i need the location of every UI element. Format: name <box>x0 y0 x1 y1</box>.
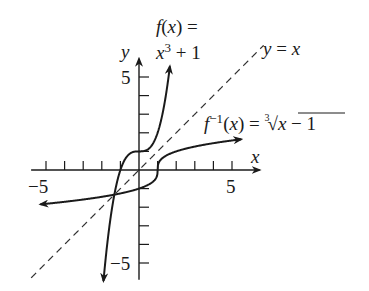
function-inverse-plot: y x −5 5 5 −5 f(x) = x3 + 1 y = x f−1(x)… <box>0 0 369 291</box>
y-axis-label: y <box>119 41 130 62</box>
f-label-line1: f(x) = <box>156 16 198 38</box>
x-axis-label: x <box>250 146 260 167</box>
curves <box>31 45 264 281</box>
y-tick-label-5: 5 <box>121 67 131 88</box>
axes <box>31 59 260 280</box>
inverse-label: f−1(x) = 3√x − 1 <box>204 111 316 135</box>
identity-line-label: y = x <box>261 38 301 59</box>
function-curve <box>103 66 169 281</box>
x-tick-label-neg5: −5 <box>28 176 48 197</box>
identity-line <box>31 45 264 278</box>
inverse-curve <box>40 139 241 204</box>
f-label-line2: x3 + 1 <box>155 40 201 63</box>
x-tick-label-5: 5 <box>226 176 236 197</box>
labels: y x −5 5 5 −5 f(x) = x3 + 1 y = x f−1(x)… <box>28 16 345 274</box>
y-tick-label-neg5: −5 <box>110 253 130 274</box>
